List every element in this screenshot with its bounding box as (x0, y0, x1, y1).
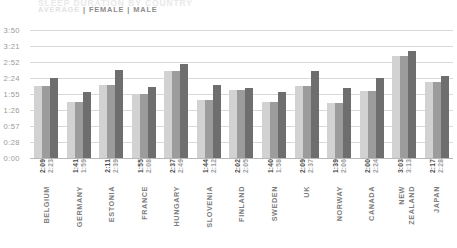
bar-average (392, 56, 400, 158)
category-label-group: NORWAY (323, 186, 356, 248)
bar-male (83, 92, 91, 158)
category-label-group: UK (290, 186, 323, 248)
value-label-group: 1:411:59 (63, 159, 96, 185)
bar-group (63, 30, 96, 158)
bar-average (164, 71, 172, 158)
bar-group (225, 30, 258, 158)
category-label: HUNGARY (172, 186, 181, 226)
bar-average (99, 85, 107, 158)
bar-male (376, 78, 384, 158)
legend-item-male: MALE (133, 5, 157, 14)
value-label-group: 1:401:58 (258, 159, 291, 185)
bar-female (368, 91, 376, 158)
value-label-group: 1:392:06 (323, 159, 356, 185)
category-label-group: GERMANY (63, 186, 96, 248)
legend-separator-1: | (83, 5, 86, 14)
value-label-male: 1:59 (80, 159, 88, 173)
value-label-group: 2:372:49 (160, 159, 193, 185)
bar-average (262, 102, 270, 158)
bar-female (205, 100, 213, 158)
bar-average (34, 86, 42, 158)
category-label-group: HUNGARY (160, 186, 193, 248)
bar-average (229, 90, 237, 158)
value-label-average: 1:39 (332, 159, 340, 173)
bar-female (42, 86, 50, 158)
category-label: ZEALAND (407, 186, 416, 225)
value-label-male: 1:58 (275, 159, 283, 173)
y-axis-tick-label: 3:21 (0, 42, 20, 51)
bar-female (140, 94, 148, 158)
bar-female (433, 82, 441, 158)
bar-male (245, 88, 253, 158)
value-label-male: 2:49 (177, 159, 185, 173)
value-label-male: 2:28 (437, 159, 445, 173)
bar-male (408, 51, 416, 158)
category-label: BELGIUM (42, 186, 51, 224)
category-label: ESTONIA (107, 186, 116, 222)
bar-male (115, 70, 123, 159)
bar-female (270, 102, 278, 158)
value-label-average: 1:55 (137, 159, 145, 173)
bar-female (172, 71, 180, 158)
category-label-group: CANADA (355, 186, 388, 248)
bar-group (420, 30, 453, 158)
bar-male (148, 87, 156, 158)
y-axis-tick-label: 0:57 (0, 122, 20, 131)
bar-female (400, 56, 408, 158)
value-label-male: 2:39 (112, 159, 120, 173)
bar-male (311, 71, 319, 158)
value-label-average: 1:40 (267, 159, 275, 173)
y-axis-tick-label: 2:52 (0, 58, 20, 67)
y-axis-tick-label: 0:28 (0, 138, 20, 147)
value-label-group: 3:033:13 (388, 159, 421, 185)
category-label-group: FINLAND (225, 186, 258, 248)
value-label-male: 2:06 (340, 159, 348, 173)
bar-group (388, 30, 421, 158)
bar-average (132, 94, 140, 158)
value-label-average: 2:11 (104, 159, 112, 173)
bar-group (323, 30, 356, 158)
value-label-group: 2:092:37 (290, 159, 323, 185)
category-label: SLOVENIA (205, 186, 214, 228)
category-label: NORWAY (335, 186, 344, 221)
value-label-group: 2:022:05 (225, 159, 258, 185)
bar-male (213, 85, 221, 159)
value-label-group: 2:002:24 (355, 159, 388, 185)
category-labels: BELGIUMGERMANYESTONIAFRANCEHUNGARYSLOVEN… (30, 186, 453, 248)
value-label-average: 2:09 (39, 159, 47, 173)
bar-female (303, 86, 311, 158)
bar-group (355, 30, 388, 158)
value-label-average: 2:37 (169, 159, 177, 173)
bar-average (197, 100, 205, 158)
value-label-male: 2:05 (242, 159, 250, 173)
value-label-group: 2:112:39 (95, 159, 128, 185)
bar-male (50, 78, 58, 158)
category-label: FRANCE (140, 186, 149, 220)
value-label-average: 3:03 (397, 159, 405, 173)
bar-average (360, 91, 368, 158)
bar-group (258, 30, 291, 158)
category-label-group: SWEDEN (258, 186, 291, 248)
bar-female (75, 102, 83, 158)
y-axis-tick-label: 2:24 (0, 74, 20, 83)
category-label-group: JAPAN (420, 186, 453, 248)
value-label-average: 1:44 (202, 159, 210, 173)
bar-female (107, 85, 115, 158)
value-label-male: 2:12 (210, 159, 218, 173)
category-label: SWEDEN (270, 186, 279, 221)
category-label: NEW (397, 186, 406, 205)
category-label: GERMANY (75, 186, 84, 227)
bar-group (30, 30, 63, 158)
bar-average (425, 82, 433, 158)
bar-groups (30, 30, 453, 158)
category-label-group: SLOVENIA (193, 186, 226, 248)
bar-male (343, 88, 351, 158)
category-label-group: BELGIUM (30, 186, 63, 248)
legend-item-average: AVERAGE (38, 5, 80, 14)
value-label-group: 1:552:08 (128, 159, 161, 185)
chart-plot-area: 3:503:212:522:241:551:260:570:280:00 (30, 30, 453, 158)
y-axis-tick-label: 1:26 (0, 106, 20, 115)
bar-group (128, 30, 161, 158)
y-axis-tick-label: 3:50 (0, 26, 20, 35)
value-label-average: 2:02 (234, 159, 242, 173)
